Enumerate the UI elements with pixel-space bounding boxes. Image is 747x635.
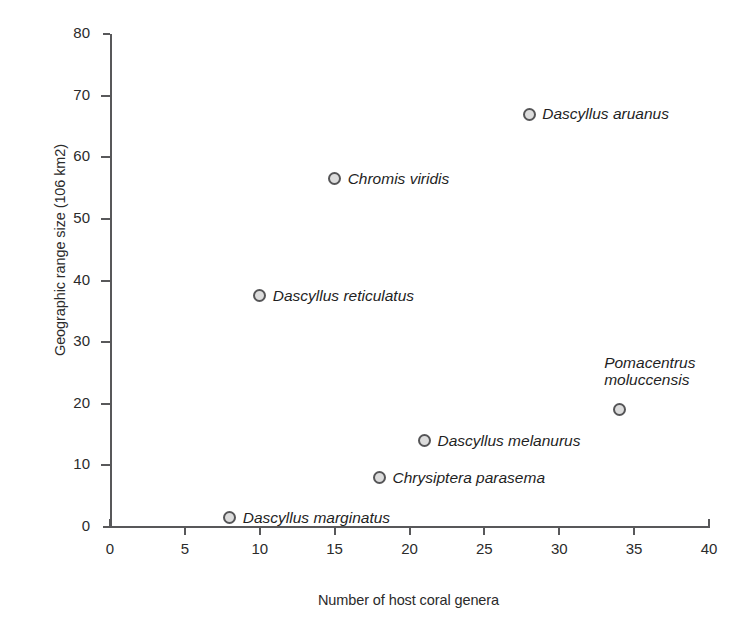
scatter-plot-figure: Geographic range size (106 km2) 01020304… (0, 0, 747, 635)
y-axis-tick (101, 280, 110, 282)
y-axis-tick-label: 0 (44, 517, 90, 534)
data-point-label: Dascyllus marginatus (243, 509, 390, 526)
y-axis-tick (101, 218, 110, 220)
y-axis-tick-label: 30 (44, 332, 90, 349)
x-axis-tick-label: 0 (90, 540, 130, 557)
x-axis-tick-label: 35 (614, 540, 654, 557)
x-axis-tick (708, 519, 710, 528)
data-point-label: Dascyllus reticulatus (273, 287, 414, 304)
x-axis-tick (558, 526, 560, 535)
x-axis-tick (633, 526, 635, 535)
y-axis-tick (101, 95, 110, 97)
x-axis-tick-label: 20 (390, 540, 430, 557)
y-axis-tick (101, 156, 110, 158)
data-point-label: Dascyllus aruanus (542, 105, 669, 122)
data-point-marker[interactable] (253, 289, 266, 302)
x-axis-tick (184, 526, 186, 535)
x-axis-tick-label: 10 (240, 540, 280, 557)
data-point-label: Dascyllus melanurus (437, 432, 580, 449)
data-point-marker[interactable] (523, 108, 536, 121)
data-point-label: Pomacentrusmoluccensis (604, 354, 695, 389)
data-point-marker[interactable] (613, 403, 626, 416)
x-axis-tick-label: 5 (165, 540, 205, 557)
data-point-label: Chromis viridis (348, 170, 450, 187)
y-axis-tick-label: 80 (44, 24, 90, 41)
data-point-marker[interactable] (328, 172, 341, 185)
y-axis-tick (101, 341, 110, 343)
y-axis-tick-label: 40 (44, 271, 90, 288)
y-axis-line (110, 34, 112, 528)
y-axis-tick-label: 50 (44, 209, 90, 226)
data-point-marker[interactable] (223, 511, 236, 524)
x-axis-tick (409, 526, 411, 535)
x-axis-label: Number of host coral genera (110, 592, 707, 608)
x-axis-tick (334, 526, 336, 535)
data-point-label: Chrysiptera parasema (393, 469, 545, 486)
y-axis-tick-label: 60 (44, 147, 90, 164)
x-axis-tick-label: 40 (689, 540, 729, 557)
y-axis-tick-label: 20 (44, 394, 90, 411)
x-axis-tick-label: 25 (464, 540, 504, 557)
y-axis-tick (103, 33, 110, 35)
x-axis-tick (109, 519, 111, 528)
data-point-marker[interactable] (373, 471, 386, 484)
x-axis-tick-label: 30 (539, 540, 579, 557)
x-axis-tick (483, 526, 485, 535)
y-axis-tick-label: 70 (44, 86, 90, 103)
y-axis-tick (101, 403, 110, 405)
y-axis-tick (101, 464, 110, 466)
x-axis-tick-label: 15 (315, 540, 355, 557)
x-axis-tick (259, 526, 261, 535)
y-axis-tick-label: 10 (44, 455, 90, 472)
data-point-marker[interactable] (418, 434, 431, 447)
